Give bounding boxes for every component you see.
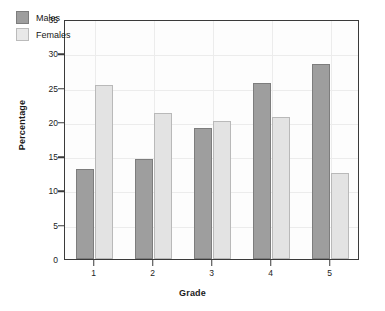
bars-layer <box>65 21 358 259</box>
bar-males-grade-1 <box>76 169 94 259</box>
y-tick-mark <box>58 88 64 90</box>
y-tick-mark <box>58 122 64 124</box>
legend-label-males: Males <box>36 13 60 23</box>
y-tick-mark <box>58 225 64 227</box>
x-tick-mark <box>270 260 272 266</box>
y-tick-label: 10 <box>18 186 58 196</box>
y-tick-mark <box>58 156 64 158</box>
y-tick-label: 15 <box>18 152 58 162</box>
x-tick-label: 4 <box>251 268 291 278</box>
y-tick-label: 25 <box>18 84 58 94</box>
plot-area <box>64 20 359 260</box>
y-tick-label: 30 <box>18 49 58 59</box>
y-tick-mark <box>58 54 64 56</box>
bar-males-grade-3 <box>194 128 212 259</box>
bar-chart: Percentage 05101520253035 12345 Grade Ma… <box>0 0 385 311</box>
y-tick-label: 5 <box>18 221 58 231</box>
x-tick-label: 3 <box>192 268 232 278</box>
x-tick-label: 1 <box>74 268 114 278</box>
bar-females-grade-1 <box>95 85 113 259</box>
x-tick-mark <box>152 260 154 266</box>
legend-item-females: Females <box>16 26 71 43</box>
x-axis-title: Grade <box>0 288 385 298</box>
x-tick-mark <box>93 260 95 266</box>
legend-swatch-females-icon <box>16 28 29 41</box>
legend-label-females: Females <box>36 30 71 40</box>
bar-females-grade-5 <box>331 173 349 259</box>
legend-item-males: Males <box>16 9 71 26</box>
bar-females-grade-2 <box>154 113 172 259</box>
legend: Males Females <box>12 6 77 47</box>
y-tick-label: 20 <box>18 118 58 128</box>
bar-females-grade-3 <box>213 121 231 259</box>
legend-swatch-males-icon <box>16 11 29 24</box>
x-tick-label: 2 <box>133 268 173 278</box>
x-tick-mark <box>329 260 331 266</box>
y-tick-mark <box>58 191 64 193</box>
x-tick-label: 5 <box>310 268 350 278</box>
bar-males-grade-4 <box>253 83 271 259</box>
bar-females-grade-4 <box>272 117 290 259</box>
y-tick-label: 0 <box>18 255 58 265</box>
bar-males-grade-2 <box>135 159 153 259</box>
x-tick-mark <box>211 260 213 266</box>
bar-males-grade-5 <box>312 64 330 259</box>
